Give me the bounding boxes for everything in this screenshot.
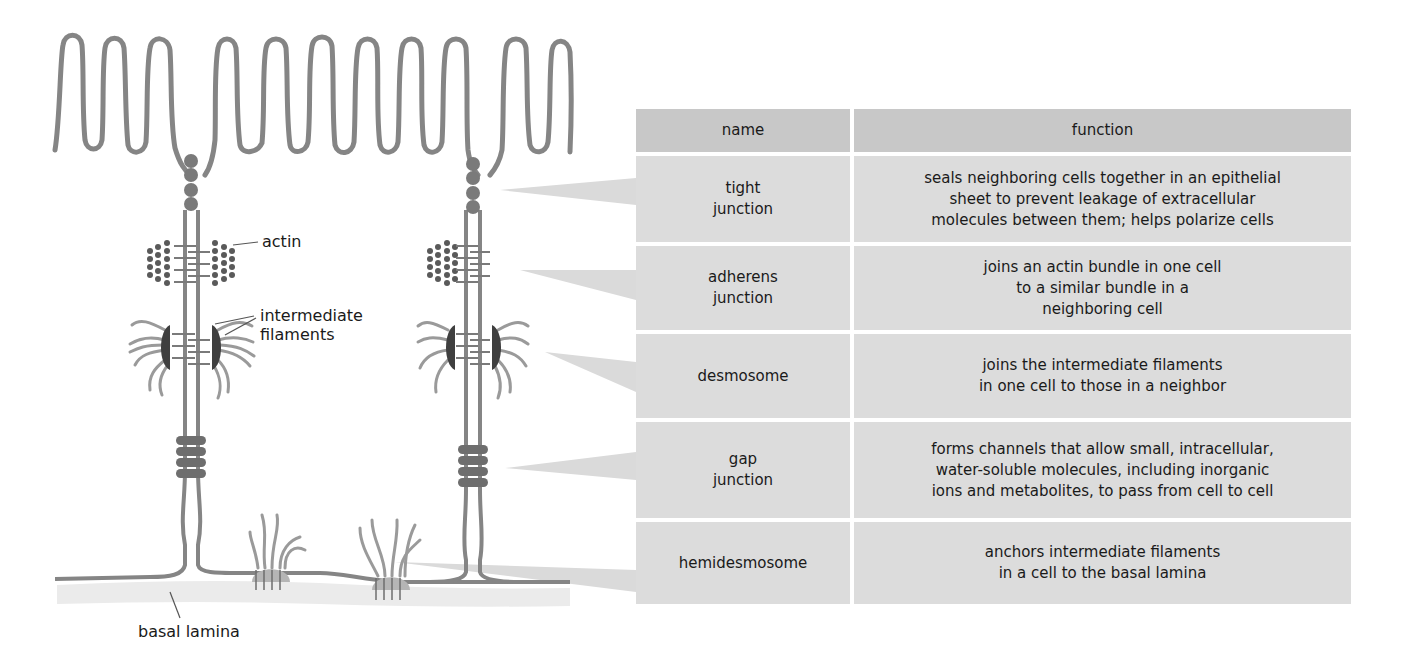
- junction-table: name function tight junction seals neigh…: [636, 109, 1351, 608]
- row-name: gap junction: [636, 422, 850, 518]
- header-function: function: [854, 109, 1351, 152]
- row-function: joins the intermediate filaments in one …: [854, 334, 1351, 418]
- header-name: name: [636, 109, 850, 152]
- row-function: seals neighboring cells together in an e…: [854, 156, 1351, 242]
- basal-lamina: [57, 581, 570, 607]
- table-header-row: name function: [636, 109, 1351, 152]
- table-row: desmosome joins the intermediate filamen…: [636, 334, 1351, 418]
- apical-membrane-microvilli: [55, 35, 571, 175]
- table-row: hemidesmosome anchors intermediate filam…: [636, 522, 1351, 604]
- row-function: joins an actin bundle in one cell to a s…: [854, 246, 1351, 330]
- row-name: adherens junction: [636, 246, 850, 330]
- label-intermediate-filaments: intermediate filaments: [260, 306, 363, 344]
- row-function: forms channels that allow small, intrace…: [854, 422, 1351, 518]
- right-cell-junction: [418, 157, 570, 582]
- table-row: tight junction seals neighboring cells t…: [636, 156, 1351, 242]
- hemidesmosome-left: [250, 515, 305, 590]
- row-function: anchors intermediate filaments in a cell…: [854, 522, 1351, 604]
- table-row: adherens junction joins an actin bundle …: [636, 246, 1351, 330]
- label-basal-lamina: basal lamina: [138, 622, 240, 641]
- pointer-wedges: [395, 178, 636, 592]
- row-name: desmosome: [636, 334, 850, 418]
- label-actin: actin: [262, 232, 301, 251]
- row-name: tight junction: [636, 156, 850, 242]
- row-name: hemidesmosome: [636, 522, 850, 604]
- table-row: gap junction forms channels that allow s…: [636, 422, 1351, 518]
